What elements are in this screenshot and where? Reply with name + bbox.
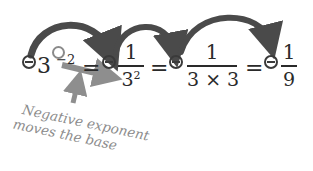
minus-circle-4-icon xyxy=(264,55,278,69)
term2-denominator: 32 xyxy=(118,70,144,89)
term3-fraction: 1 3 × 3 xyxy=(187,42,237,89)
curved-arrow-1 xyxy=(31,25,110,55)
term3-numerator: 1 xyxy=(187,42,237,62)
minus-circle-1-icon xyxy=(22,55,36,69)
annotation-arrow xyxy=(73,82,78,103)
fraction-bar xyxy=(281,65,297,67)
term2-fraction: 1 32 xyxy=(118,42,144,89)
equals-sign-1: = xyxy=(82,57,100,79)
equals-sign-3: = xyxy=(245,57,263,79)
fraction-bar xyxy=(187,65,237,67)
arrows-layer xyxy=(0,0,313,171)
term4-numerator: 1 xyxy=(281,42,297,62)
term4-denominator: 9 xyxy=(281,70,297,89)
term3-denominator: 3 × 3 xyxy=(187,70,237,89)
term1-base: 3 xyxy=(37,55,51,77)
term2-numerator: 1 xyxy=(118,42,144,62)
term1-exponent: −2 xyxy=(56,53,75,66)
minus-circle-3-icon xyxy=(169,55,183,69)
minus-circle-2-icon xyxy=(102,55,116,69)
equals-sign-2: = xyxy=(150,57,168,79)
fraction-bar xyxy=(118,65,144,67)
term4-fraction: 1 9 xyxy=(281,42,297,89)
